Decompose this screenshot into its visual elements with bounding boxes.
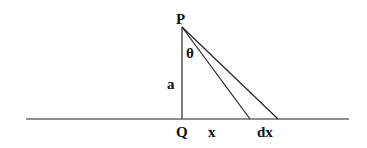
label-theta: θ (186, 45, 194, 61)
label-dx: dx (257, 124, 273, 140)
label-x: x (208, 124, 216, 140)
label-a: a (167, 76, 175, 92)
geometry-diagram: P θ a Q x dx (0, 0, 367, 148)
ray-to-x (182, 27, 250, 119)
label-Q: Q (176, 124, 188, 140)
label-P: P (176, 11, 185, 27)
ray-to-x-plus-dx (182, 27, 278, 119)
